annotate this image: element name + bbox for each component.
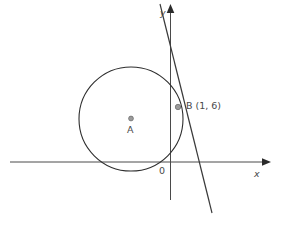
x-axis-label: x (254, 169, 260, 179)
point-b-marker (175, 104, 180, 109)
geometry-figure: x y 0 A B (1, 6) (0, 0, 285, 226)
origin-label: 0 (159, 166, 165, 176)
point-b-label: B (1, 6) (186, 101, 221, 111)
figure-canvas (0, 0, 285, 226)
point-a-marker (129, 116, 134, 121)
y-axis-label: y (160, 8, 166, 18)
point-a-label: A (127, 125, 134, 135)
x-axis-arrowhead (262, 158, 271, 166)
y-axis-arrowhead (167, 4, 175, 13)
